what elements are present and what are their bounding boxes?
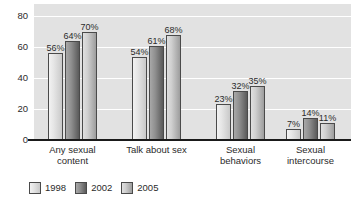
bar-group: 23%32%35% [216, 4, 267, 140]
x-axis-category-label: Talk about sex [112, 144, 202, 155]
legend-swatch [121, 182, 133, 194]
bar-value-label: 7% [287, 120, 300, 129]
bar-value-label: 14% [301, 109, 319, 118]
bar-group: 56%64%70% [48, 4, 99, 140]
legend-item[interactable]: 1998 [29, 182, 66, 194]
bar[interactable]: 54% [132, 57, 147, 140]
y-axis-tick-label: 60 [17, 42, 28, 52]
y-axis-tick-label: 80 [17, 11, 28, 21]
x-axis-category-label: Sexual intercourse [266, 144, 351, 166]
bar[interactable]: 35% [250, 86, 265, 140]
bar-value-label: 64% [63, 32, 81, 41]
bar-value-label: 11% [319, 114, 336, 123]
bar-value-label: 35% [248, 77, 266, 86]
y-axis: 020406080 [0, 0, 32, 144]
bar[interactable]: 56% [48, 53, 63, 140]
legend-item[interactable]: 2005 [121, 182, 158, 194]
bar-value-label: 54% [130, 48, 148, 57]
bar-group: 7%14%11% [286, 4, 337, 140]
legend-label: 1998 [45, 183, 66, 193]
bar[interactable]: 61% [149, 46, 164, 140]
legend-swatch [29, 182, 41, 194]
bar-value-label: 61% [147, 37, 165, 46]
legend-item[interactable]: 2002 [75, 182, 112, 194]
bar-value-label: 23% [214, 95, 232, 104]
bar[interactable]: 68% [166, 35, 181, 140]
y-axis-tick-label: 20 [17, 104, 28, 114]
bar[interactable]: 70% [82, 32, 97, 140]
legend-swatch [75, 182, 87, 194]
bar-value-label: 70% [80, 23, 98, 32]
bar-value-label: 56% [46, 44, 64, 53]
bar-group: 54%61%68% [132, 4, 183, 140]
x-axis-line [28, 139, 351, 141]
bar[interactable]: 14% [303, 118, 318, 140]
bar[interactable]: 11% [320, 123, 335, 140]
plot-area: 56%64%70%54%61%68%23%32%35%7%14%11% [34, 4, 351, 140]
bar[interactable]: 23% [216, 104, 231, 140]
bar[interactable]: 32% [233, 91, 248, 140]
bar-value-label: 32% [231, 82, 249, 91]
x-axis-category-label: Any sexual content [28, 144, 118, 166]
bar[interactable]: 64% [65, 41, 80, 140]
y-axis-tick-label: 40 [17, 73, 28, 83]
bar-value-label: 68% [164, 26, 182, 35]
bar-chart: 020406080 56%64%70%54%61%68%23%32%35%7%1… [0, 0, 351, 205]
legend-label: 2002 [91, 183, 112, 193]
chart-legend: 199820022005 [29, 182, 167, 194]
legend-label: 2005 [137, 183, 158, 193]
